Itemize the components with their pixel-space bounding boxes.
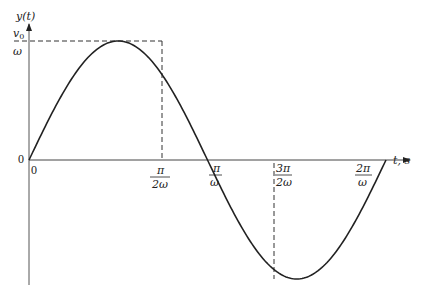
svg-text:ω: ω [358, 176, 367, 189]
svg-text:2π: 2π [355, 162, 371, 175]
x-tick-2pi-over-omega: 2π ω [355, 162, 372, 189]
svg-text:π: π [156, 164, 165, 177]
y-axis-label: y(t) [15, 10, 35, 23]
svg-text:ω: ω [210, 176, 219, 189]
svg-text:π: π [212, 162, 221, 175]
x-zero-label: 0 [31, 163, 37, 177]
y-tick-denominator: ω [13, 45, 22, 58]
svg-text:3π: 3π [276, 162, 291, 175]
x-axis-label: t, s [393, 154, 410, 167]
svg-text:2ω: 2ω [151, 178, 168, 191]
sine-plot: y(t) v0 ω 0 0 π 2ω π ω 3π 2ω 2π ω t, s [0, 0, 422, 290]
svg-text:2ω: 2ω [275, 176, 292, 189]
y-zero-label: 0 [18, 152, 24, 166]
y-tick-numerator: v0 [13, 27, 24, 41]
x-tick-pi-over-2omega: π 2ω [150, 164, 170, 191]
x-tick-3pi-over-2omega: 3π 2ω [275, 162, 292, 189]
